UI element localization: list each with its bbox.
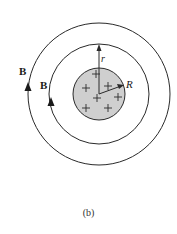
inner-field-arrowhead-icon [48, 97, 55, 106]
ampere-loop-diagram: B B r R [0, 0, 177, 234]
figure-caption: (b) [0, 207, 177, 218]
outer-field-arrowhead-icon [25, 82, 32, 91]
radius-R-label: R [125, 78, 133, 90]
inner-field-label: B [40, 79, 48, 91]
arrowhead-icon [97, 44, 102, 51]
outer-field-label: B [19, 65, 27, 77]
radius-r-label: r [101, 53, 105, 64]
